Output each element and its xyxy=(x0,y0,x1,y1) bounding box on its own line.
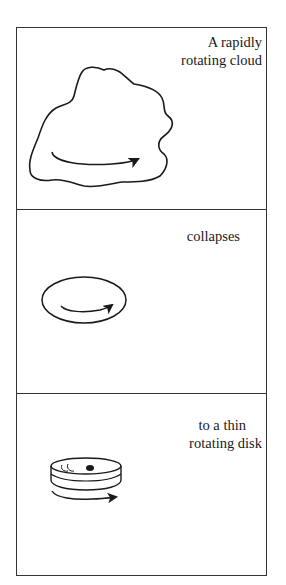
rotation-arrow-icon xyxy=(61,305,112,312)
cloud-shape xyxy=(30,67,173,186)
rotation-arrow-icon xyxy=(52,491,116,499)
diagram-figures xyxy=(0,0,286,585)
collapsing-ellipse xyxy=(42,277,126,323)
rotation-arrow-icon xyxy=(52,152,138,165)
thin-disk xyxy=(51,458,121,490)
